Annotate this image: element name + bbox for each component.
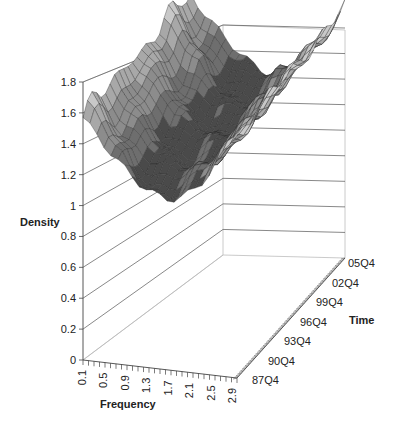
frequency-tick-label: 1.3 — [140, 378, 152, 393]
frequency-tick-label: 2.9 — [226, 388, 238, 403]
time-tick-label: 02Q4 — [332, 277, 359, 289]
gridline — [223, 178, 345, 181]
frequency-tick-label: 0.9 — [119, 375, 131, 390]
frequency-tick-label: 2.5 — [205, 385, 217, 400]
gridline — [223, 51, 345, 54]
frequency-tick-label: 2.1 — [183, 383, 195, 398]
time-tick-label: 93Q4 — [284, 335, 311, 347]
time-axis-title: Time — [349, 314, 374, 326]
time-tick-label: 96Q4 — [300, 316, 327, 328]
gridline — [83, 178, 223, 267]
density-tick-label: 1.4 — [61, 138, 76, 150]
gridline — [223, 204, 345, 207]
frequency-axis-title: Frequency — [100, 398, 157, 410]
density-axis-ticks: 00.20.40.60.811.21.41.61.8 — [61, 76, 83, 366]
density-tick-label: 0.6 — [61, 261, 76, 273]
floor-diagonal — [83, 255, 223, 360]
density-tick-label: 0.2 — [61, 323, 76, 335]
surface-chart: 00.20.40.60.811.21.41.61.8 0.10.50.91.31… — [0, 0, 398, 430]
density-tick-label: 0.4 — [61, 292, 76, 304]
gridline — [83, 204, 223, 298]
density-tick-label: 1.2 — [61, 169, 76, 181]
frequency-tick-label: 0.5 — [97, 373, 109, 388]
time-tick-label: 99Q4 — [316, 296, 343, 308]
density-tick-label: 1.6 — [61, 107, 76, 119]
gridline — [223, 229, 345, 232]
time-tick-label: 87Q4 — [252, 374, 279, 386]
frequency-tick-label: 0.1 — [76, 370, 88, 385]
time-tick-label: 05Q4 — [348, 257, 375, 269]
frequency-tick-label: 1.7 — [162, 380, 174, 395]
density-axis-title: Density — [20, 216, 61, 228]
density-tick-label: 0 — [70, 354, 76, 366]
time-tick-label: 90Q4 — [268, 355, 295, 367]
density-tick-label: 1.8 — [61, 76, 76, 88]
density-tick-label: 0.8 — [61, 230, 76, 242]
frequency-axis-ticks: 0.10.50.91.31.72.12.52.9 — [76, 360, 238, 403]
density-tick-label: 1 — [70, 200, 76, 212]
gridline — [83, 229, 223, 329]
density-surface — [83, 0, 345, 202]
gridline — [223, 153, 345, 156]
